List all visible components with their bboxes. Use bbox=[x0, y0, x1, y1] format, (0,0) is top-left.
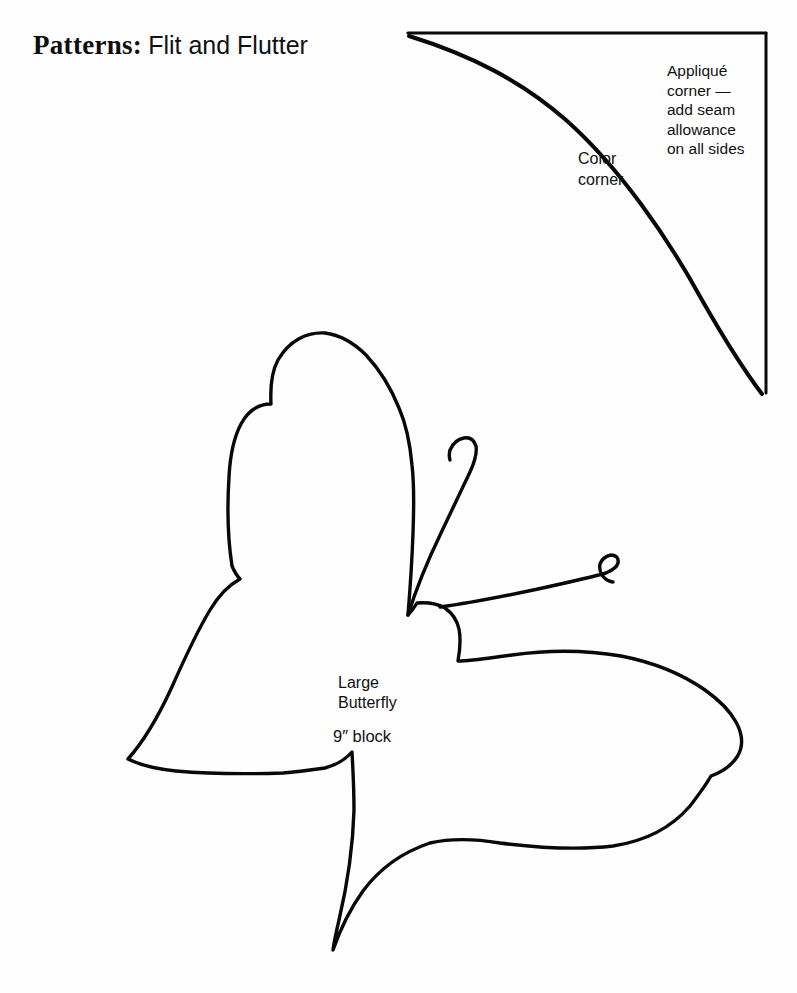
applique-note-line-1: Appliqué bbox=[667, 61, 773, 81]
page-title: Patterns:Flit and Flutter bbox=[33, 32, 308, 59]
butterfly-name-line-1: Large bbox=[338, 673, 448, 693]
applique-note-line-2: corner — bbox=[667, 81, 773, 101]
applique-note-line-4: allowance bbox=[667, 120, 773, 140]
butterfly-wings-path bbox=[128, 333, 741, 950]
color-corner-line-1: Color bbox=[578, 148, 678, 169]
large-butterfly-outline bbox=[128, 333, 741, 950]
butterfly-antenna-left bbox=[408, 438, 476, 615]
applique-corner-note: Appliqué corner — add seam allowance on … bbox=[667, 61, 773, 159]
color-corner-note: Color corner bbox=[578, 148, 678, 190]
butterfly-block-size: 9″ block bbox=[333, 726, 443, 746]
applique-note-line-3: add seam bbox=[667, 100, 773, 120]
applique-note-line-5: on all sides bbox=[667, 139, 773, 159]
color-corner-line-2: corner bbox=[578, 169, 678, 190]
butterfly-block-size-label: 9″ block bbox=[333, 726, 443, 746]
page-title-name: Flit and Flutter bbox=[148, 31, 308, 59]
butterfly-name-line-2: Butterfly bbox=[338, 693, 448, 713]
pattern-page: Patterns:Flit and Flutter Appliqué corne… bbox=[0, 0, 797, 993]
butterfly-antenna-right bbox=[440, 555, 618, 607]
butterfly-name-label: Large Butterfly bbox=[338, 673, 448, 713]
page-title-prefix: Patterns: bbox=[33, 30, 142, 60]
